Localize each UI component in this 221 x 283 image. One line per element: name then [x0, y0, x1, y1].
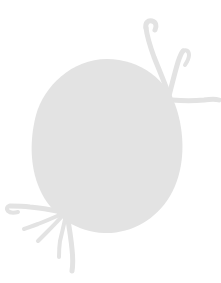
image-canvas: Faded light-gray silhouette watermark of… [0, 0, 221, 283]
body-shape [32, 59, 183, 233]
twig-upper-right-branch [172, 99, 219, 101]
bird-silhouette-graphic [0, 0, 221, 283]
